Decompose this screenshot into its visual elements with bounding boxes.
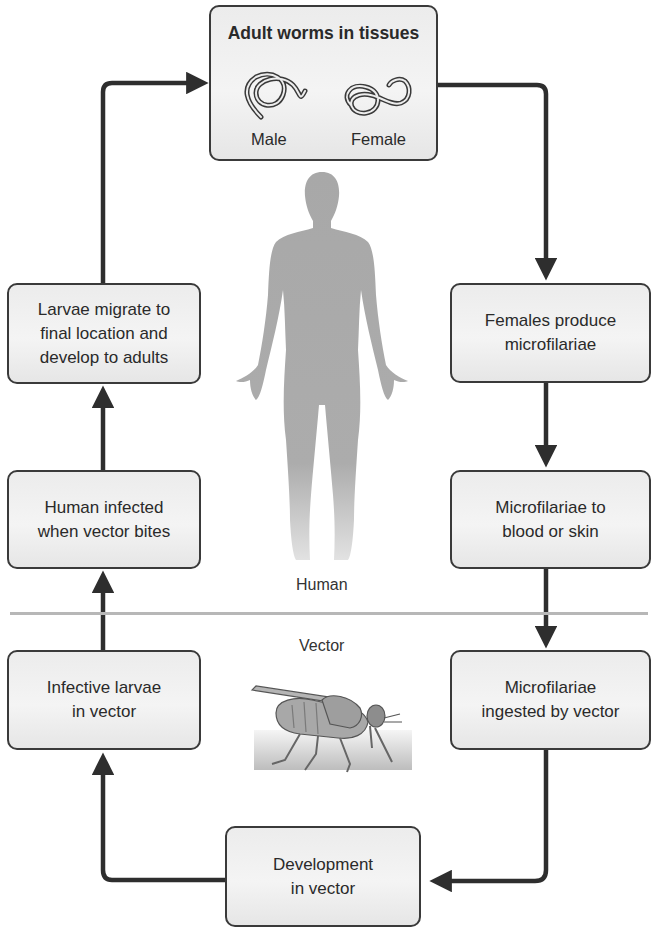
female-label: Female <box>351 127 406 151</box>
node-label: Infective larvae in vector <box>47 676 161 724</box>
node-label: Human infected when vector bites <box>38 496 170 544</box>
node-label: Females produce microfilariae <box>485 309 616 357</box>
node-development-in-vector: Development in vector <box>225 826 421 927</box>
node-infective-larvae: Infective larvae in vector <box>7 650 201 750</box>
node-label: Microfilariae to blood or skin <box>495 496 606 544</box>
node-label: Larvae migrate to final location and dev… <box>38 298 170 370</box>
node-females-produce-microfilariae: Females produce microfilariae <box>450 283 651 383</box>
node-microfilariae-to-blood-skin: Microfilariae to blood or skin <box>450 470 651 569</box>
node-microfilariae-ingested: Microfilariae ingested by vector <box>450 650 651 750</box>
node-label: Microfilariae ingested by vector <box>482 676 620 724</box>
node-adult-worms: Adult worms in tissues Male Female <box>209 5 438 161</box>
node-larvae-migrate: Larvae migrate to final location and dev… <box>7 283 201 384</box>
node-human-infected: Human infected when vector bites <box>7 470 201 569</box>
node-label: Development in vector <box>273 853 373 901</box>
male-label: Male <box>251 127 287 151</box>
